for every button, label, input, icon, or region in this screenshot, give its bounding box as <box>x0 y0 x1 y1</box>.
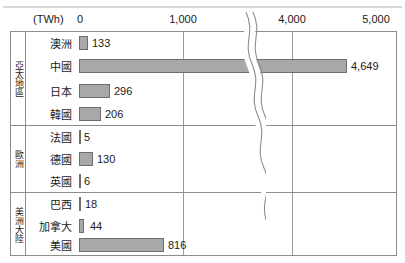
table-row: 德國 130 <box>0 148 405 170</box>
bar-value-brazil: 18 <box>85 193 97 215</box>
category-label-japan: 日本 <box>25 80 75 102</box>
bar-germany <box>79 152 93 166</box>
top-divider-rule <box>3 6 402 8</box>
table-row: 澳洲 133 <box>0 32 405 54</box>
bar-value-australia: 133 <box>92 32 110 54</box>
bar-usa <box>79 238 164 252</box>
table-row: 巴西 18 <box>0 193 405 215</box>
category-label-france: 法國 <box>25 126 75 148</box>
category-label-uk: 英國 <box>25 170 75 192</box>
category-label-brazil: 巴西 <box>25 193 75 215</box>
table-row: 美國 816 <box>0 234 405 256</box>
x-tick-label-4000: 4,000 <box>278 13 306 25</box>
category-label-germany: 德國 <box>25 148 75 170</box>
table-row: 法國 5 <box>0 126 405 148</box>
axis-unit-label: (TWh) <box>33 13 64 25</box>
x-tick-label-5000: 5,000 <box>362 13 390 25</box>
bar-canada <box>79 219 84 233</box>
bar-value-china: 4,649 <box>351 55 379 77</box>
bar-china <box>79 59 347 73</box>
bar-japan <box>79 84 110 98</box>
table-row: 日本 296 <box>0 80 405 102</box>
category-label-australia: 澳洲 <box>25 32 75 54</box>
bar-korea <box>79 107 101 121</box>
x-axis-tick-labels: (TWh) 0 1,000 4,000 5,000 <box>0 13 405 29</box>
bar-uk <box>79 174 81 188</box>
bar-value-uk: 6 <box>84 170 90 192</box>
category-label-korea: 韓國 <box>25 103 75 125</box>
category-label-usa: 美國 <box>25 234 75 256</box>
table-row: 韓國 206 <box>0 103 405 125</box>
bar-value-japan: 296 <box>114 80 132 102</box>
category-label-china: 中國 <box>25 55 75 77</box>
bar-value-france: 5 <box>84 126 90 148</box>
bar-brazil <box>79 197 81 211</box>
x-tick-label-0: 0 <box>77 13 83 25</box>
table-row: 中國 4,649 <box>0 55 405 77</box>
chart-container: (TWh) 0 1,000 4,000 5,000 亞太地區 歐洲 美洲大陸 澳… <box>0 0 405 263</box>
table-row: 英國 6 <box>0 170 405 192</box>
x-tick-label-1000: 1,000 <box>169 13 197 25</box>
bar-value-germany: 130 <box>97 148 115 170</box>
bar-australia <box>79 36 88 50</box>
bar-france <box>79 130 81 144</box>
bar-value-usa: 816 <box>168 234 186 256</box>
bar-value-korea: 206 <box>105 103 123 125</box>
